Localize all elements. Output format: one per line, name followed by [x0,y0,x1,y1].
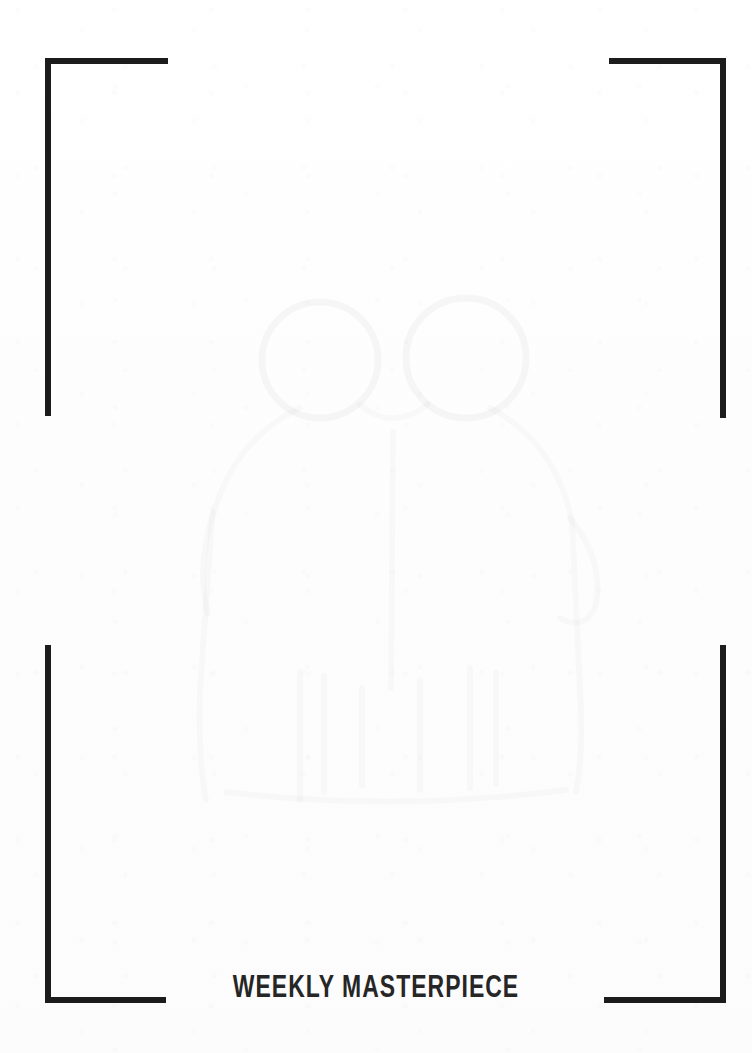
crop-bracket-top-left-vertical-arm [45,58,51,416]
poster-page: WEEKLY MASTERPIECE [0,0,752,1053]
crop-bracket-top-left-horizontal-arm [45,58,168,64]
ghost-figure-watermark [0,0,752,1053]
crop-bracket-bottom-right-vertical-arm [720,645,726,1003]
ghost-head-left [262,302,378,418]
poster-caption: WEEKLY MASTERPIECE [98,968,654,1006]
crop-bracket-top-right-horizontal-arm [609,58,726,64]
ghost-arm-right [560,518,598,623]
ghost-center-seam [391,432,393,688]
paper-texture [0,0,752,1053]
ghost-neck [360,404,428,418]
ghost-body-left [200,408,300,800]
ghost-head-right [406,298,526,418]
ghost-arm-left [203,512,213,614]
ghost-hem [226,790,566,802]
crop-bracket-bottom-left-vertical-arm [45,645,51,1003]
ghost-figure-svg [0,0,752,1053]
crop-bracket-top-right-vertical-arm [720,58,726,418]
ghost-body-right [490,408,581,792]
